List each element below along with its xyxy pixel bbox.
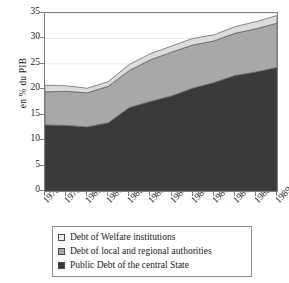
legend-label: Debt of Welfare institutions xyxy=(70,232,175,242)
legend-label: Debt of local and regional authorities xyxy=(70,246,212,256)
legend-swatch xyxy=(58,262,65,269)
legend-label: Public Debt of the central State xyxy=(70,260,189,270)
stacked-area-chart-figure: en % du PIB 05101520253035 1978197919801… xyxy=(0,0,289,283)
y-axis-tick-label: 35 xyxy=(4,7,40,17)
legend-swatch xyxy=(58,248,65,255)
y-axis-tick-label: 10 xyxy=(4,134,40,144)
y-axis-tick-label: 30 xyxy=(4,32,40,42)
y-axis-tick-label: 20 xyxy=(4,83,40,93)
legend-item: Debt of local and regional authorities xyxy=(58,244,246,258)
y-axis-tick-label: 25 xyxy=(4,58,40,68)
y-axis-tick-label: 15 xyxy=(4,109,40,119)
legend-swatch xyxy=(58,234,65,241)
y-axis-tick-label: 0 xyxy=(4,185,40,195)
legend-item: Public Debt of the central State xyxy=(58,258,246,272)
plot-area xyxy=(44,12,278,192)
legend-item: Debt of Welfare institutions xyxy=(58,230,246,244)
area-series-svg xyxy=(45,13,277,191)
chart-legend: Debt of Welfare institutionsDebt of loca… xyxy=(52,226,252,277)
stacked-areas xyxy=(45,16,277,191)
y-axis-tick-label: 5 xyxy=(4,160,40,170)
